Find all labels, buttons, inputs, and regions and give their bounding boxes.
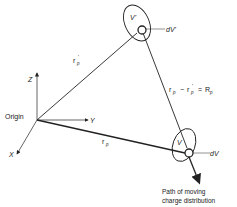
element-dv-prime-circle (138, 26, 146, 34)
svg-text:p: p (209, 90, 213, 95)
vector-r-label: r p (102, 138, 109, 147)
axis-x-label: X (8, 151, 14, 158)
field-volume (168, 125, 210, 182)
axis-y-label: Y (90, 117, 96, 124)
volume-v-ellipse (168, 125, 200, 164)
path-caption: Path of moving charge distribution (162, 188, 215, 205)
svg-text:p: p (76, 61, 80, 66)
vector-r-prime-label: r p ' (73, 54, 80, 66)
svg-text:r: r (169, 86, 172, 93)
svg-text:p: p (190, 90, 194, 95)
svg-text:−: − (180, 86, 184, 93)
axis-z-label: Z (27, 76, 33, 83)
path-arrow (189, 157, 199, 182)
svg-text:Path of moving: Path of moving (162, 188, 206, 196)
element-dv-prime-label: dV' (166, 26, 177, 33)
origin-label: Origin (5, 113, 24, 121)
position-vectors (37, 33, 187, 153)
svg-text:': ' (78, 54, 79, 60)
vector-r (37, 120, 185, 153)
volume-v-prime-ellipse (118, 1, 156, 46)
charge-distribution-diagram: Origin Z Y X V' dV' V dV r p ' r p r p −… (0, 0, 237, 207)
volume-v-prime-label: V' (130, 14, 137, 21)
difference-vector-label: r p − r p ' = R p (169, 83, 213, 95)
svg-text:r: r (102, 138, 105, 145)
diagram-canvas: Origin Z Y X V' dV' V dV r p ' r p r p −… (0, 0, 237, 207)
source-volume (118, 1, 165, 46)
svg-text:': ' (192, 83, 193, 89)
x-axis (17, 120, 37, 154)
element-dv-label: dV (210, 150, 220, 157)
vector-r-prime (37, 33, 137, 120)
svg-text:p: p (172, 90, 176, 95)
svg-text:charge distribution: charge distribution (162, 197, 215, 205)
svg-text:r: r (187, 86, 190, 93)
volume-v-label: V (177, 139, 183, 146)
element-dv-circle (185, 149, 193, 157)
svg-text:r: r (73, 57, 76, 64)
svg-text:p: p (105, 142, 109, 147)
svg-text:=: = (198, 86, 202, 93)
